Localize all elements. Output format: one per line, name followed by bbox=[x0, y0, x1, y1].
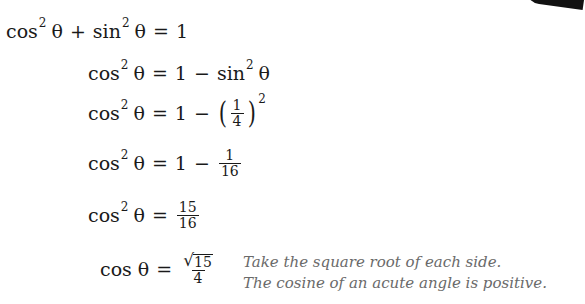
right-paren: ) bbox=[247, 98, 255, 128]
rhs-one: 1 bbox=[175, 62, 187, 84]
plus-sign: + bbox=[70, 20, 86, 42]
function-cos: cos bbox=[88, 62, 120, 84]
equals-sign: = bbox=[152, 204, 168, 226]
exponent: 2 bbox=[122, 16, 130, 30]
denominator: 4 bbox=[231, 113, 244, 129]
denominator: 4 bbox=[192, 270, 205, 286]
exponent: 2 bbox=[121, 148, 129, 162]
numerator: 15 bbox=[177, 200, 199, 215]
equals-sign: = bbox=[156, 258, 172, 280]
numerator: 1 bbox=[223, 148, 236, 163]
equation-line-5: cos2 θ = 15 16 bbox=[88, 200, 201, 230]
variable-theta: θ bbox=[135, 20, 146, 42]
numerator-sqrt: √15 bbox=[181, 252, 215, 270]
function-sin: sin bbox=[93, 20, 121, 42]
annotation-note-2: The cosine of an acute angle is positive… bbox=[243, 274, 547, 292]
function-cos: cos bbox=[100, 258, 132, 280]
page-corner-shadow bbox=[523, 0, 585, 10]
equals-sign: = bbox=[152, 152, 168, 174]
equation-line-3: cos2 θ = 1 − ( 1 4 )2 bbox=[88, 98, 266, 128]
variable-theta: θ bbox=[133, 62, 144, 84]
exponent: 2 bbox=[258, 92, 266, 106]
exponent: 2 bbox=[39, 16, 47, 30]
variable-theta: θ bbox=[259, 62, 270, 84]
variable-theta: θ bbox=[133, 204, 144, 226]
function-cos: cos bbox=[88, 152, 120, 174]
equation-line-6: cos θ = √15 4 bbox=[100, 252, 217, 286]
fraction: 15 16 bbox=[177, 200, 199, 230]
rhs-one: 1 bbox=[175, 152, 187, 174]
minus-sign: − bbox=[194, 102, 210, 124]
equation-line-4: cos2 θ = 1 − 1 16 bbox=[88, 148, 243, 178]
rhs-value: 1 bbox=[176, 20, 188, 42]
variable-theta: θ bbox=[138, 258, 149, 280]
fraction: 1 4 bbox=[231, 98, 244, 128]
equals-sign: = bbox=[152, 62, 168, 84]
function-sin: sin bbox=[217, 62, 245, 84]
left-paren: ( bbox=[219, 98, 227, 128]
exponent: 2 bbox=[121, 98, 129, 112]
equals-sign: = bbox=[152, 102, 168, 124]
exponent: 2 bbox=[121, 200, 129, 214]
function-cos: cos bbox=[88, 204, 120, 226]
fraction: √15 4 bbox=[181, 252, 215, 286]
function-cos: cos bbox=[88, 102, 120, 124]
denominator: 16 bbox=[177, 215, 199, 231]
function-cos: cos bbox=[6, 20, 38, 42]
exponent: 2 bbox=[246, 58, 254, 72]
fraction: 1 16 bbox=[219, 148, 241, 178]
annotation-note-1: Take the square root of each side. bbox=[243, 253, 501, 271]
variable-theta: θ bbox=[133, 152, 144, 174]
equation-line-2: cos2 θ = 1 − sin2 θ bbox=[88, 62, 270, 84]
minus-sign: − bbox=[194, 62, 210, 84]
rhs-one: 1 bbox=[175, 102, 187, 124]
variable-theta: θ bbox=[133, 102, 144, 124]
exponent: 2 bbox=[121, 58, 129, 72]
equation-line-1: cos2 θ + sin2 θ = 1 bbox=[6, 20, 188, 42]
equals-sign: = bbox=[153, 20, 169, 42]
minus-sign: − bbox=[194, 152, 210, 174]
variable-theta: θ bbox=[51, 20, 62, 42]
radicand: 15 bbox=[193, 254, 213, 270]
denominator: 16 bbox=[219, 163, 241, 179]
numerator: 1 bbox=[231, 98, 244, 113]
